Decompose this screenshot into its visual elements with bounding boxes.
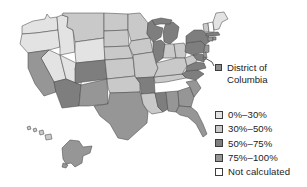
legend-item-3[interactable]: 75%–100% <box>215 151 307 165</box>
state-MN[interactable] <box>128 13 150 41</box>
legend-item-1[interactable]: 30%–50% <box>215 122 307 136</box>
map-legend: 0%–30% 30%–50% 50%–75% 75%–100% Not calc… <box>215 108 307 179</box>
state-ME[interactable] <box>213 12 228 30</box>
state-CO[interactable] <box>75 60 107 83</box>
legend-item-2[interactable]: 50%–75% <box>215 136 307 150</box>
state-FL[interactable] <box>176 106 207 137</box>
state-MI[interactable] <box>163 22 179 44</box>
legend-label-2: 50%–75% <box>228 139 272 149</box>
dc-label-line-1: District of <box>227 62 267 74</box>
state-HI-3[interactable] <box>39 130 44 135</box>
state-OR[interactable] <box>20 30 60 53</box>
state-HI-4[interactable] <box>45 134 52 140</box>
legend-swatch-3 <box>215 154 223 162</box>
state-NC[interactable] <box>182 70 204 80</box>
legend-item-4[interactable]: Not calculated <box>215 165 307 179</box>
state-HI-2[interactable] <box>33 128 37 132</box>
legend-swatch-1 <box>215 125 223 133</box>
state-KS[interactable] <box>105 58 135 79</box>
state-AZ[interactable] <box>54 79 81 108</box>
state-SD[interactable] <box>104 30 129 47</box>
legend-label-1: 30%–50% <box>228 124 272 134</box>
dc-leader-line <box>206 58 214 66</box>
dc-swatch <box>215 64 222 71</box>
state-WY[interactable] <box>75 38 105 63</box>
state-NM[interactable] <box>79 79 108 106</box>
dc-callout-row: District of <box>215 62 307 74</box>
legend-label-3: 75%–100% <box>228 153 278 163</box>
legend-item-0[interactable]: 0%–30% <box>215 108 307 122</box>
state-PA[interactable] <box>185 41 205 55</box>
state-MO[interactable] <box>133 52 158 78</box>
state-HI-1[interactable] <box>27 126 31 130</box>
state-CT[interactable] <box>208 37 213 41</box>
dc-label-line-2: Columbia <box>227 74 307 86</box>
legend-label-0: 0%–30% <box>228 110 267 120</box>
legend-swatch-0 <box>215 111 223 119</box>
legend-swatch-2 <box>215 139 223 147</box>
state-AK[interactable] <box>62 140 92 167</box>
state-RI[interactable] <box>213 37 216 40</box>
state-DC[interactable] <box>203 57 205 59</box>
state-AL[interactable] <box>166 91 179 112</box>
dc-callout: District of Columbia <box>215 62 307 85</box>
legend-swatch-4 <box>215 168 223 176</box>
state-OK[interactable] <box>107 76 140 93</box>
state-NE[interactable] <box>104 46 133 60</box>
us-choropleth-figure: District of Columbia 0%–30% 30%–50% 50%–… <box>0 0 307 187</box>
state-MI-up[interactable] <box>152 18 172 25</box>
legend-label-4: Not calculated <box>228 167 290 177</box>
state-ND[interactable] <box>104 13 128 31</box>
state-MA[interactable] <box>206 32 220 36</box>
